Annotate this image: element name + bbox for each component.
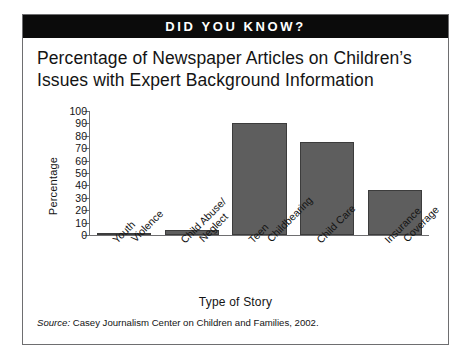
- page-title-line-1: Percentage of Newspaper Articles on Chil…: [37, 47, 437, 69]
- y-tick-label-100: 100: [27, 105, 87, 117]
- y-tick-label-0: 0: [27, 229, 87, 241]
- y-tick-label-80: 80: [27, 130, 87, 142]
- y-tick-label-90: 90: [27, 117, 87, 129]
- source-text: Casey Journalism Center on Children and …: [73, 317, 319, 328]
- x-axis-label: Type of Story: [23, 295, 448, 309]
- source-note: Source: Casey Journalism Center on Child…: [37, 317, 319, 328]
- y-tick-label-70: 70: [27, 142, 87, 154]
- banner-title: DID YOU KNOW?: [165, 20, 305, 33]
- infographic-card: DID YOU KNOW? Percentage of Newspaper Ar…: [22, 14, 449, 345]
- y-tick-label-50: 50: [27, 167, 87, 179]
- source-prefix: Source:: [37, 317, 70, 328]
- banner: DID YOU KNOW?: [23, 15, 448, 38]
- x-axis-category-labels: YouthViolenceChild Abuse/NeglectTeenChil…: [90, 237, 430, 299]
- y-tick-label-30: 30: [27, 192, 87, 204]
- y-tick-label-20: 20: [27, 204, 87, 216]
- y-tick-label-40: 40: [27, 179, 87, 191]
- y-tick-label-10: 10: [27, 217, 87, 229]
- page-title-line-2: Issues with Expert Background Informatio…: [37, 69, 437, 91]
- bar-chart: Percentage 1009080706050403020100 YouthV…: [23, 97, 448, 307]
- page-title: Percentage of Newspaper Articles on Chil…: [37, 47, 437, 91]
- did-you-know-infographic: DID YOU KNOW? Percentage of Newspaper Ar…: [0, 0, 471, 363]
- y-tick-label-60: 60: [27, 155, 87, 167]
